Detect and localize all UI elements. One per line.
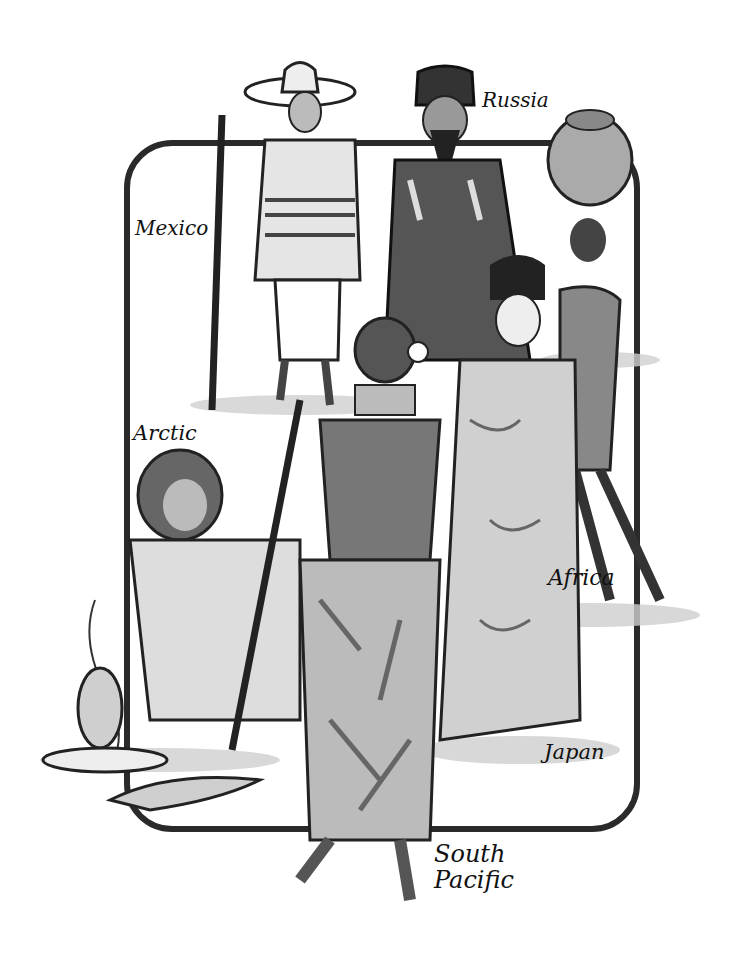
label-south-pacific-line1: South (434, 842, 505, 867)
label-africa: Africa (548, 566, 615, 589)
mexico-figure (212, 63, 360, 411)
label-south-pacific-line2: Pacific (434, 868, 514, 893)
label-mexico: Mexico (135, 218, 208, 239)
illustration-canvas: Mexico Russia Arctic Africa Japan South … (0, 0, 738, 972)
label-japan: Japan (544, 741, 604, 763)
figures-drawing (0, 0, 738, 972)
label-russia: Russia (482, 90, 549, 111)
label-arctic: Arctic (133, 422, 197, 444)
